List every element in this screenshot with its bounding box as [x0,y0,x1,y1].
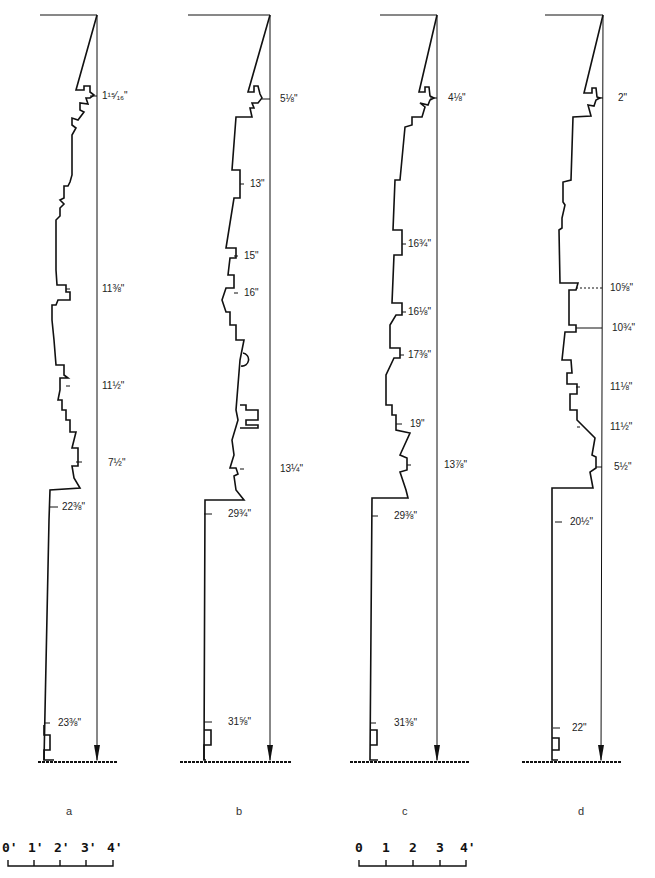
dim-label: 11⅜" [102,283,124,295]
silhouette-b [204,15,270,760]
dim-label: 4⅛" [448,92,465,104]
ornament-b [240,353,258,428]
dim-label: 11⅛" [610,381,632,393]
plumb-arrow-a [94,745,100,762]
scale-label: 0 [355,840,363,855]
dim-label: 1¹⁵⁄₁₆" [102,90,128,102]
base-steps-d [552,738,559,750]
caption-d: d [578,805,584,817]
profile-c [350,15,470,762]
scale-label: 4' [460,840,476,855]
dim-label: 10¾" [612,322,635,334]
dim-label: 31⅜" [394,717,417,729]
dim-label: 13¼" [280,463,303,475]
scale-label: 2' [54,840,70,855]
caption-b: b [236,805,242,817]
scale-bar-1 [8,860,113,866]
scale-label: 3' [81,840,97,855]
dim-label: 5⅛" [280,93,297,105]
plumb-arrow-c [434,745,440,762]
dim-label: 13" [250,178,265,190]
scale-label: 1 [382,840,390,855]
dim-label: 7½" [108,457,125,469]
caption-c: c [402,805,408,817]
dim-label: 15" [244,250,259,262]
plumb-arrow-d [598,745,604,762]
dim-label: 2" [618,92,627,104]
plumb-arrow-b [267,745,273,762]
dim-label: 29⅜" [394,510,417,522]
dim-label: 10⅝" [610,282,633,294]
plumb-line-d [601,15,603,760]
scale-label: 0' [2,840,18,855]
dim-label: 17⅜" [408,349,431,361]
dim-label: 22" [572,722,587,734]
dim-label: 16" [244,287,259,299]
profile-b [180,15,292,762]
profile-d [522,15,622,762]
dim-label: 11½" [102,380,124,392]
caption-a: a [66,805,72,817]
base-steps-c [370,730,377,745]
scale-label: 3 [436,840,444,855]
dim-label: 31⅝" [228,716,251,728]
scale-label: 2 [409,840,417,855]
silhouette-c [370,15,437,760]
profile-drawings [0,0,655,878]
scale-label: 1' [28,840,44,855]
dim-label: 20½" [570,516,593,528]
scale-bar-2 [359,860,466,866]
dim-label: 29¾" [228,508,251,520]
scale-label: 4' [107,840,123,855]
dim-label: 19" [410,418,425,430]
dim-label: 13⅞" [444,459,467,471]
dim-label: 5½" [614,461,631,473]
dim-label: 16⅛" [408,306,431,318]
silhouette-a [44,15,97,760]
base-steps-b [204,730,211,760]
dim-label: 11½" [610,421,632,433]
dim-label: 16¾" [408,238,431,250]
dim-label: 22⅜" [62,501,85,513]
dim-label: 23⅜" [58,717,81,729]
